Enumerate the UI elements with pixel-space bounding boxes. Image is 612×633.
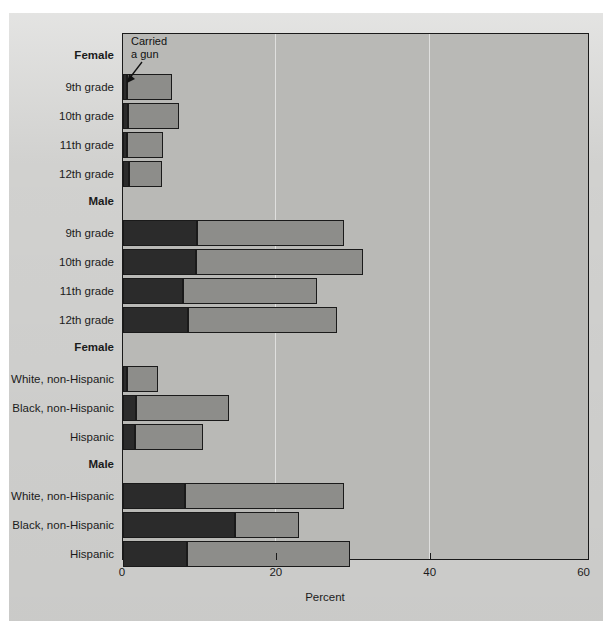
- bar-segment-remainder[interactable]: [188, 307, 337, 333]
- x-axis-ticklabel-20: 20: [256, 566, 296, 578]
- x-axis-tick-20: [276, 553, 278, 560]
- figure-panel: Female9th grade10th grade11th grade12th …: [9, 13, 603, 621]
- bar-segment-remainder[interactable]: [127, 366, 158, 392]
- annotation-arrow-icon: [126, 61, 144, 83]
- bar-segment-carried-a-gun[interactable]: [123, 278, 183, 304]
- bar-segment-carried-a-gun[interactable]: [123, 161, 129, 187]
- bar-segment-remainder[interactable]: [197, 220, 344, 246]
- y-axis-label: 11th grade: [9, 285, 114, 297]
- bar-segment-carried-a-gun[interactable]: [123, 483, 185, 509]
- x-axis-ticklabel-40: 40: [410, 566, 450, 578]
- y-axis-label: 12th grade: [9, 168, 114, 180]
- bar-segment-carried-a-gun[interactable]: [123, 307, 188, 333]
- group-header-female-0: Female: [9, 49, 114, 61]
- bar-segment-carried-a-gun[interactable]: [123, 424, 135, 450]
- annotation-line-2: a gun: [131, 48, 167, 61]
- y-axis-label: 9th grade: [9, 227, 114, 239]
- annotation-carried-a-gun: Carried a gun: [131, 35, 167, 60]
- bar-segment-remainder[interactable]: [127, 132, 163, 158]
- y-axis-label: 11th grade: [9, 139, 114, 151]
- y-axis-label: 10th grade: [9, 256, 114, 268]
- y-axis-label: 9th grade: [9, 81, 114, 93]
- bar-segment-carried-a-gun[interactable]: [123, 103, 128, 129]
- bar-segment-remainder[interactable]: [128, 103, 180, 129]
- group-header-female-10: Female: [9, 341, 114, 353]
- bar-segment-carried-a-gun[interactable]: [123, 395, 136, 421]
- bar-segment-carried-a-gun[interactable]: [123, 249, 196, 275]
- plot-area: [122, 33, 589, 560]
- bar-segment-carried-a-gun[interactable]: [123, 366, 127, 392]
- y-axis-label: Black, non-Hispanic: [9, 402, 114, 414]
- group-header-male-14: Male: [9, 458, 114, 470]
- y-axis-label: 10th grade: [9, 110, 114, 122]
- y-axis-label: White, non-Hispanic: [9, 373, 114, 385]
- bar-segment-remainder[interactable]: [185, 483, 344, 509]
- y-axis-label: Black, non-Hispanic: [9, 519, 114, 531]
- bar-segment-remainder[interactable]: [129, 161, 162, 187]
- bar-segment-remainder[interactable]: [196, 249, 363, 275]
- group-header-male-5: Male: [9, 195, 114, 207]
- y-axis-label: Hispanic: [9, 548, 114, 560]
- x-axis-title: Percent: [255, 591, 395, 603]
- bar-segment-remainder[interactable]: [187, 541, 350, 567]
- bar-segment-remainder[interactable]: [183, 278, 317, 304]
- bar-segment-carried-a-gun[interactable]: [123, 132, 127, 158]
- x-axis-tick-40: [430, 553, 432, 560]
- bar-segment-carried-a-gun[interactable]: [123, 512, 235, 538]
- gridline-40: [429, 34, 430, 559]
- bar-segment-carried-a-gun[interactable]: [123, 220, 197, 246]
- annotation-line-1: Carried: [131, 35, 167, 48]
- y-axis-label: Hispanic: [9, 431, 114, 443]
- bar-segment-remainder[interactable]: [235, 512, 300, 538]
- bar-segment-carried-a-gun[interactable]: [123, 541, 187, 567]
- bar-segment-remainder[interactable]: [135, 424, 203, 450]
- x-axis-ticklabel-60: 60: [564, 566, 604, 578]
- x-axis-ticklabel-0: 0: [102, 566, 142, 578]
- y-axis-label: 12th grade: [9, 314, 114, 326]
- y-axis-label: White, non-Hispanic: [9, 490, 114, 502]
- bar-segment-remainder[interactable]: [136, 395, 229, 421]
